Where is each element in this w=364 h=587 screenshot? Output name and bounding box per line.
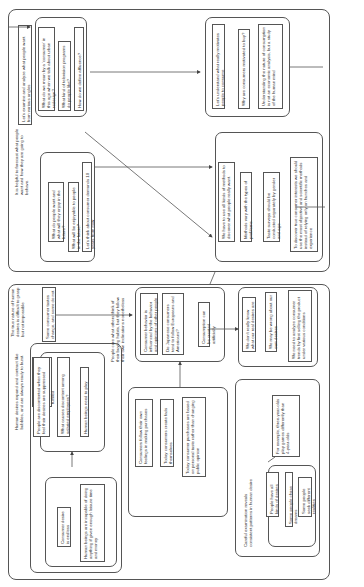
connector-arrows bbox=[0, 0, 364, 587]
rotated-diagram-canvas: Let's examine and analyze what people wa… bbox=[0, 0, 364, 587]
